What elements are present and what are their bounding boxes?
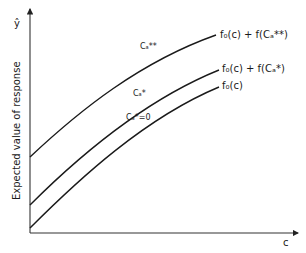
y-axis-title: Expected value of response	[11, 61, 22, 200]
param-label-bottom: Cₐ*=0	[126, 113, 151, 122]
label-middle-curve: f₀(c) + f(Cₐ*)	[222, 63, 285, 74]
curve-f0-plus-f-ca-double-star	[30, 35, 216, 157]
curve-f0	[30, 87, 219, 228]
curve-f0-plus-f-ca-star	[30, 70, 219, 205]
label-bottom-curve: f₀(c)	[222, 80, 243, 91]
y-axis-symbol: ŷ	[14, 18, 20, 29]
label-top-curve: f₀(c) + f(Cₐ**)	[220, 29, 288, 40]
x-axis-symbol: c	[283, 237, 289, 248]
param-label-middle: Cₐ*	[133, 89, 146, 98]
response-curves-chart: ŷ Expected value of response c f₀(c) + f…	[0, 0, 306, 253]
param-label-top: Cₐ**	[140, 42, 157, 51]
